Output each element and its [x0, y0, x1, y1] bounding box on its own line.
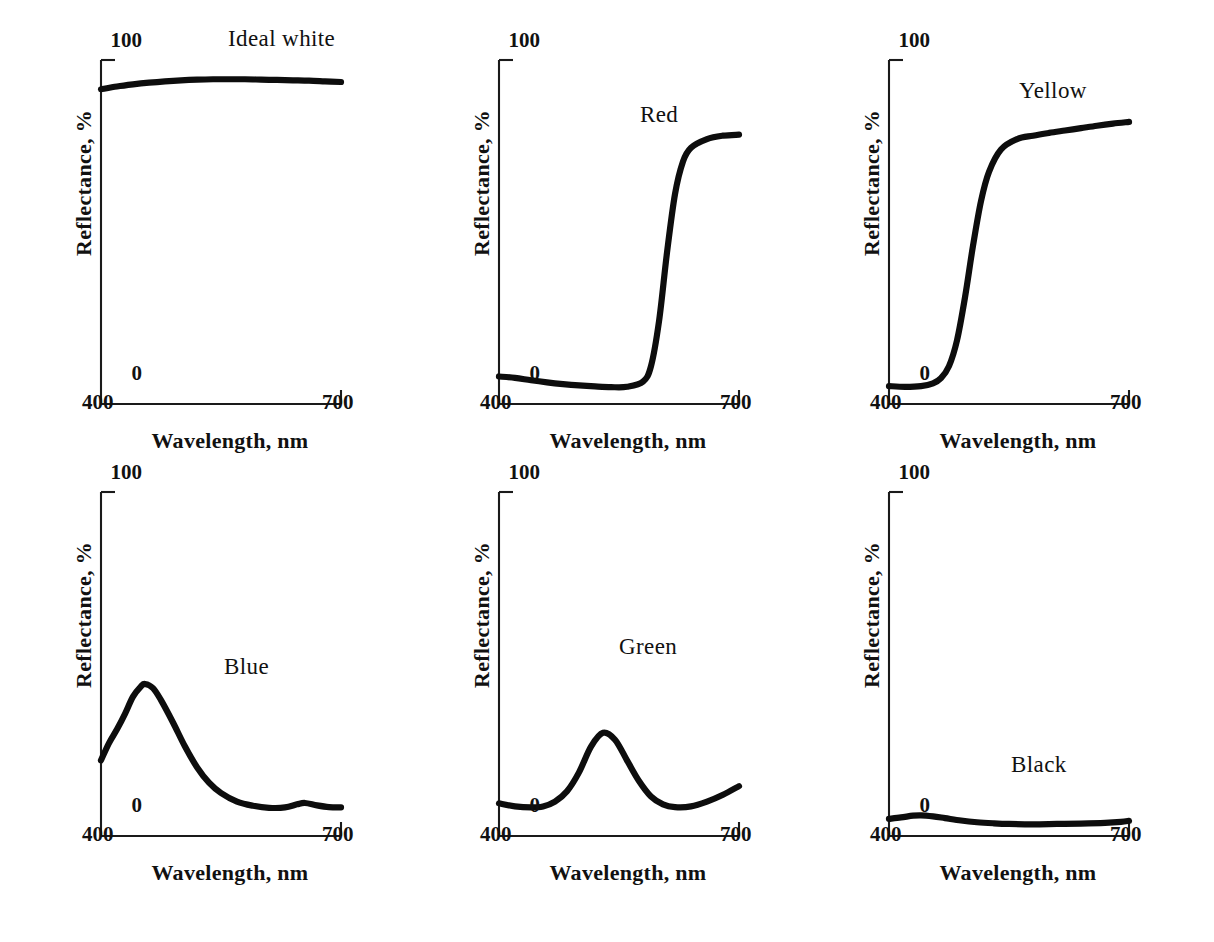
curve-blue: [101, 684, 341, 808]
y-axis-label: Reflectance, %: [859, 505, 885, 725]
y-tick-min-label: 0: [132, 795, 143, 816]
curve-label-red: Red: [640, 102, 678, 128]
y-tick-max-label: 100: [509, 462, 541, 483]
y-axis-label: Reflectance, %: [469, 73, 495, 293]
y-tick-max-label: 100: [111, 30, 143, 51]
curve-label-yellow: Yellow: [1019, 78, 1087, 104]
curve-yellow: [889, 122, 1129, 387]
panel-ideal-white: 100 0 400 700 Wavelength, nm Reflectance…: [60, 20, 460, 480]
axes-black: [889, 492, 1129, 836]
panel-yellow: 100 0 400 700 Wavelength, nm Reflectance…: [848, 20, 1214, 480]
plot-ideal-white: [60, 20, 460, 480]
x-tick-max-label: 700: [1110, 824, 1142, 845]
panel-black: 100 0 400 700 Wavelength, nm Reflectance…: [848, 452, 1214, 912]
x-tick-min-label: 400: [870, 824, 902, 845]
x-tick-min-label: 400: [480, 824, 512, 845]
y-tick-min-label: 0: [920, 795, 931, 816]
x-tick-max-label: 700: [1110, 392, 1142, 413]
x-tick-min-label: 400: [480, 392, 512, 413]
x-tick-max-label: 700: [322, 824, 354, 845]
curve-red: [499, 135, 739, 388]
x-tick-min-label: 400: [82, 392, 114, 413]
plot-green: [458, 452, 858, 912]
x-tick-max-label: 700: [720, 824, 752, 845]
y-tick-max-label: 100: [509, 30, 541, 51]
axes-yellow: [889, 60, 1129, 404]
panel-blue: 100 0 400 700 Wavelength, nm Reflectance…: [60, 452, 460, 912]
y-tick-max-label: 100: [899, 30, 931, 51]
plot-blue: [60, 452, 460, 912]
y-tick-min-label: 0: [530, 363, 541, 384]
axes-ideal-white: [101, 60, 341, 404]
y-tick-max-label: 100: [899, 462, 931, 483]
y-axis-label: Reflectance, %: [71, 505, 97, 725]
curve-label-green: Green: [619, 634, 677, 660]
y-axis-label: Reflectance, %: [469, 505, 495, 725]
x-axis-label: Wavelength, nm: [60, 860, 400, 886]
curve-label-ideal-white: Ideal white: [228, 26, 335, 52]
panel-red: 100 0 400 700 Wavelength, nm Reflectance…: [458, 20, 858, 480]
x-axis-label: Wavelength, nm: [848, 428, 1188, 454]
plot-red: [458, 20, 858, 480]
y-tick-min-label: 0: [920, 363, 931, 384]
y-tick-min-label: 0: [132, 363, 143, 384]
y-axis-label: Reflectance, %: [71, 73, 97, 293]
curve-label-blue: Blue: [224, 654, 269, 680]
x-tick-max-label: 700: [322, 392, 354, 413]
curve-label-black: Black: [1011, 752, 1067, 778]
curve-ideal-white: [101, 79, 341, 89]
x-tick-min-label: 400: [870, 392, 902, 413]
panel-green: 100 0 400 700 Wavelength, nm Reflectance…: [458, 452, 858, 912]
x-axis-label: Wavelength, nm: [458, 428, 798, 454]
x-axis-label: Wavelength, nm: [60, 428, 400, 454]
y-tick-max-label: 100: [111, 462, 143, 483]
spectral-reflectance-figure: 100 0 400 700 Wavelength, nm Reflectance…: [0, 0, 1214, 942]
y-tick-min-label: 0: [530, 795, 541, 816]
axes-red: [499, 60, 739, 404]
axes-blue: [101, 492, 341, 836]
x-tick-max-label: 700: [720, 392, 752, 413]
x-tick-min-label: 400: [82, 824, 114, 845]
x-axis-label: Wavelength, nm: [848, 860, 1188, 886]
y-axis-label: Reflectance, %: [859, 73, 885, 293]
axes-green: [499, 492, 739, 836]
plot-black: [848, 452, 1214, 912]
x-axis-label: Wavelength, nm: [458, 860, 798, 886]
